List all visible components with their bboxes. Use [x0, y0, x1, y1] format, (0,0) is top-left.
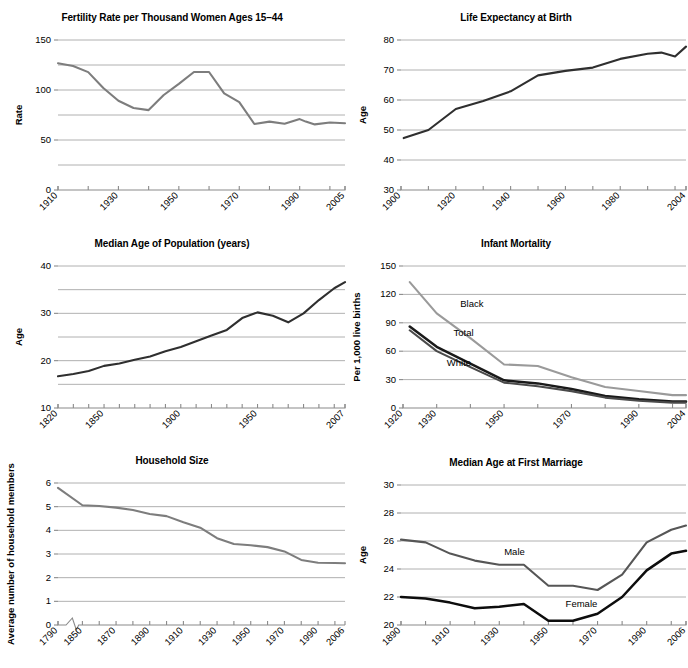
- chart-panel-infant-mortality: Infant Mortality030609012015019201930195…: [344, 230, 688, 450]
- y-axis-title: Average number of household members: [5, 463, 16, 645]
- x-tick-label: 1870: [95, 625, 118, 648]
- y-tick-label: 4: [46, 524, 51, 535]
- x-tick-label: 1910: [162, 625, 185, 648]
- x-tick-label: 2006: [665, 625, 688, 648]
- x-tick-label: 2007: [324, 408, 347, 431]
- y-tick-label: 50: [383, 124, 394, 135]
- y-axis-title: Age: [357, 106, 368, 124]
- x-tick-label: 1950: [229, 625, 252, 648]
- y-tick-label: 60: [385, 345, 396, 356]
- x-tick-label: 1930: [415, 408, 438, 431]
- x-tick-label: 2005: [324, 190, 347, 213]
- x-tick-label: 1970: [218, 190, 241, 213]
- x-axis-with-break: [58, 618, 345, 630]
- x-tick-label: 1970: [263, 625, 286, 648]
- y-tick-label: 90: [385, 317, 396, 328]
- y-tick-label: 150: [35, 34, 51, 45]
- y-tick-label: 22: [383, 591, 394, 602]
- series-line-female: [401, 551, 686, 621]
- y-tick-label: 5: [46, 501, 51, 512]
- y-tick-label: 3: [46, 548, 51, 559]
- x-tick-label: 1930: [97, 190, 120, 213]
- series-line-median-age: [58, 282, 345, 376]
- series-label-total: Total: [454, 327, 474, 338]
- y-tick-label: 120: [380, 288, 396, 299]
- series-label-female: Female: [566, 598, 598, 609]
- series-line-household-size: [58, 488, 345, 563]
- chart-panel-median-age-first-marriage: Median Age at First Marriage202224262830…: [344, 450, 688, 668]
- x-tick-label: 1960: [544, 190, 567, 213]
- x-tick-label: 1950: [236, 408, 259, 431]
- x-tick-label: 1970: [576, 625, 599, 648]
- x-tick-label: 1940: [489, 190, 512, 213]
- series-line-black: [410, 282, 686, 395]
- chart-title: Median Age of Population (years): [0, 238, 344, 249]
- y-tick-label: 80: [383, 34, 394, 45]
- x-tick-label: 1950: [158, 190, 181, 213]
- y-tick-label: 100: [35, 84, 51, 95]
- chart-title: Infant Mortality: [344, 238, 688, 249]
- chart-panel-household-size: Household Size01234561790185018701890191…: [0, 450, 344, 668]
- series-line-male: [401, 526, 686, 590]
- chart-title: Median Age at First Marriage: [344, 457, 688, 468]
- y-tick-label: 30: [40, 307, 51, 318]
- x-tick-label: 1910: [429, 625, 452, 648]
- x-tick-label: 2006: [324, 625, 347, 648]
- series-line-life-expectancy: [404, 47, 686, 139]
- y-tick-label: 30: [385, 374, 396, 385]
- x-axis: [58, 186, 345, 190]
- y-tick-label: 60: [383, 94, 394, 105]
- chart-title: Household Size: [0, 455, 344, 466]
- y-tick-label: 50: [40, 134, 51, 145]
- x-tick-label: 1850: [83, 408, 106, 431]
- chart-title: Life Expectancy at Birth: [344, 12, 688, 23]
- y-tick-label: 2: [46, 572, 51, 583]
- chart-canvas: 1020304018201850190019502007Age: [0, 230, 344, 450]
- x-tick-label: 1920: [434, 190, 457, 213]
- chart-canvas: 304050607080190019201940196019802004Age: [344, 0, 688, 230]
- x-tick-label: 1930: [478, 625, 501, 648]
- series-label-black: Black: [460, 298, 483, 309]
- chart-title: Fertility Rate per Thousand Women Ages 1…: [0, 12, 344, 23]
- chart-panel-life-expectancy: Life Expectancy at Birth3040506070801900…: [344, 0, 688, 230]
- y-axis-title: Age: [357, 546, 368, 564]
- x-tick-label: 1890: [128, 625, 151, 648]
- x-axis: [58, 404, 345, 408]
- x-tick-label: 1910: [37, 190, 60, 213]
- x-tick-label: 1990: [618, 408, 641, 431]
- x-axis: [403, 404, 686, 408]
- x-tick-label: 1950: [527, 625, 550, 648]
- y-tick-label: 28: [383, 507, 394, 518]
- y-axis-title: Per 1,000 live births: [351, 292, 362, 381]
- y-tick-label: 20: [40, 355, 51, 366]
- chart-panel-median-age-population: Median Age of Population (years)10203040…: [0, 230, 344, 450]
- y-axis-title: Age: [13, 328, 24, 346]
- x-tick-label: 2004: [665, 408, 688, 431]
- y-tick-label: 6: [46, 477, 51, 488]
- x-tick-label: 1900: [159, 408, 182, 431]
- y-tick-label: 150: [380, 260, 396, 271]
- x-tick-label: 1930: [196, 625, 219, 648]
- chart-canvas: 050100150191019301950197019902005Rate: [0, 0, 344, 230]
- x-tick-label: 1920: [382, 408, 405, 431]
- x-tick-label: 2004: [665, 190, 688, 213]
- y-tick-label: 70: [383, 64, 394, 75]
- chart-canvas: 2022242628301890191019301950197019902006…: [344, 450, 688, 668]
- y-tick-label: 26: [383, 535, 394, 546]
- y-tick-label: 1: [46, 595, 51, 606]
- x-tick-label: 1970: [550, 408, 573, 431]
- y-tick-label: 40: [383, 154, 394, 165]
- x-tick-label: 1990: [625, 625, 648, 648]
- y-axis-title: Rate: [13, 105, 24, 126]
- chart-canvas: 0123456179018501870189019101930195019701…: [0, 450, 344, 668]
- chart-canvas: 0306090120150192019301950197019902004Per…: [344, 230, 688, 450]
- x-tick-label: 1990: [278, 190, 301, 213]
- x-tick-label: 1950: [483, 408, 506, 431]
- x-axis: [401, 186, 686, 190]
- y-tick-label: 24: [383, 563, 394, 574]
- x-axis: [401, 621, 686, 625]
- y-tick-label: 40: [40, 260, 51, 271]
- x-tick-label: 1980: [599, 190, 622, 213]
- x-tick-label: 1990: [297, 625, 320, 648]
- x-tick-label: 1850: [61, 625, 84, 648]
